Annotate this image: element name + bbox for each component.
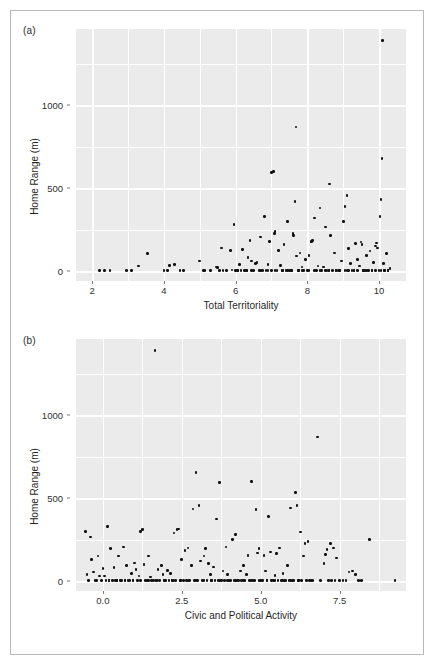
data-point <box>179 579 182 582</box>
data-point <box>113 566 116 569</box>
y-tick-mark <box>67 188 70 189</box>
data-point <box>95 579 98 582</box>
y-tick-label: 500 <box>23 493 63 504</box>
chart-panel-b: (b) Home Range (m) 05001000 0.02.55.07.5… <box>11 323 423 633</box>
x-tick-mark <box>182 591 183 594</box>
data-point <box>313 217 316 220</box>
data-point <box>87 579 90 582</box>
gridline-horizontal-minor <box>76 230 406 231</box>
data-point <box>282 579 285 582</box>
data-point <box>253 579 256 582</box>
data-point <box>295 126 298 129</box>
data-point <box>132 579 135 582</box>
data-point <box>353 269 356 272</box>
data-point <box>278 547 281 550</box>
y-tick-mark <box>67 415 70 416</box>
data-point <box>324 553 327 556</box>
data-point <box>304 258 307 261</box>
figure-frame: (a) Home Range (m) 05001000 246810 Total… <box>10 10 424 655</box>
data-point <box>169 572 172 575</box>
data-point <box>125 564 128 567</box>
data-point <box>335 557 338 560</box>
data-point <box>277 249 280 252</box>
data-point <box>368 538 371 541</box>
data-point <box>239 570 242 573</box>
data-point <box>324 226 327 229</box>
y-tick-label: 1000 <box>23 100 63 111</box>
data-point <box>286 564 289 567</box>
data-point <box>249 239 252 242</box>
data-point <box>361 243 364 246</box>
data-point <box>329 542 332 545</box>
y-tick-label: 500 <box>23 183 63 194</box>
data-point <box>198 504 201 507</box>
gridline-horizontal-minor <box>76 540 406 541</box>
data-point <box>97 555 100 558</box>
data-point <box>146 252 149 255</box>
gridline-horizontal-major <box>76 498 406 500</box>
data-point <box>267 269 270 272</box>
data-point <box>195 471 198 474</box>
data-point <box>199 560 202 563</box>
data-point <box>256 261 259 264</box>
data-point <box>247 256 250 259</box>
data-point <box>344 205 347 208</box>
x-tick-mark <box>261 591 262 594</box>
data-point <box>376 247 379 250</box>
y-tick-mark <box>67 498 70 499</box>
data-point <box>106 525 109 528</box>
data-point <box>286 269 289 272</box>
data-point <box>268 240 271 243</box>
data-point <box>138 575 141 578</box>
y-axis-title-b: Home Range (m) <box>29 412 40 562</box>
data-point <box>328 183 331 186</box>
data-point <box>351 570 354 573</box>
data-point <box>139 579 142 582</box>
data-point <box>203 555 206 558</box>
data-point <box>326 548 329 551</box>
data-point <box>349 262 352 265</box>
data-point <box>365 269 368 272</box>
plot-area-b <box>76 339 406 591</box>
gridline-vertical-major <box>261 339 263 591</box>
data-point <box>143 563 146 566</box>
data-point <box>225 269 228 272</box>
x-tick-mark <box>236 281 237 284</box>
data-point <box>281 269 284 272</box>
data-point <box>380 269 383 272</box>
gridline-horizontal-major <box>76 415 406 417</box>
data-point <box>86 573 89 576</box>
data-point <box>301 266 304 269</box>
x-tick-label: 4 <box>161 285 166 296</box>
x-axis-title-a: Total Territoriality <box>76 300 406 311</box>
data-point <box>294 200 297 203</box>
data-point <box>354 242 357 245</box>
data-point <box>155 579 158 582</box>
data-point <box>122 546 125 549</box>
data-point <box>242 564 245 567</box>
data-point <box>160 564 163 567</box>
data-point <box>215 518 218 521</box>
data-point <box>347 247 350 250</box>
data-point <box>137 265 140 268</box>
gridline-vertical-major <box>103 339 105 591</box>
data-point <box>356 258 359 261</box>
data-point <box>365 254 368 257</box>
data-point <box>297 579 300 582</box>
y-axis-a: Home Range (m) 05001000 <box>11 29 73 281</box>
data-point <box>356 269 359 272</box>
data-point <box>342 220 345 223</box>
data-point <box>245 269 248 272</box>
data-point <box>241 248 244 251</box>
data-point <box>300 579 303 582</box>
gridline-horizontal-minor <box>76 374 406 375</box>
data-point <box>347 269 350 272</box>
data-point <box>267 263 270 266</box>
x-tick-label: 7.5 <box>333 595 346 606</box>
data-point <box>272 170 275 173</box>
data-point <box>383 269 386 272</box>
data-point <box>331 269 334 272</box>
gridline-vertical-major <box>182 339 184 591</box>
data-point <box>324 269 327 272</box>
data-point <box>358 265 361 268</box>
